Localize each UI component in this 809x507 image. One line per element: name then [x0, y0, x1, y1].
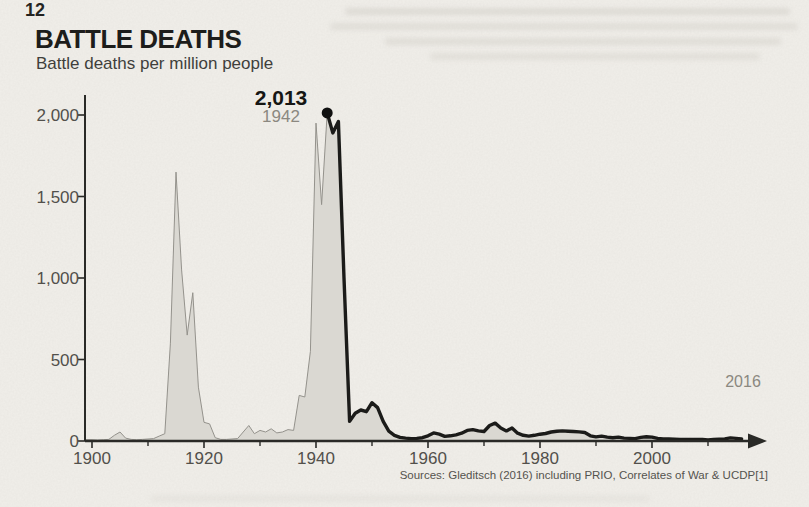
peak-dot — [322, 107, 333, 118]
y-tick-label-500: 500 — [51, 351, 79, 370]
x-tick-label-1900: 1900 — [73, 449, 111, 468]
x-tick-label-1980: 1980 — [521, 449, 559, 468]
x-tick-label-1940: 1940 — [297, 449, 335, 468]
y-tick-label-2000: 2,000 — [36, 106, 79, 125]
battle-deaths-line — [327, 113, 741, 440]
x-tick-label-1960: 1960 — [409, 449, 447, 468]
x-tick-label-1920: 1920 — [185, 449, 223, 468]
x-axis-arrow-icon — [748, 434, 767, 449]
battle-deaths-chart: 05001,0001,5002,000190019201940196019802… — [0, 0, 809, 507]
battle-deaths-area — [85, 113, 742, 441]
peak-year-label: 1942 — [246, 107, 316, 127]
x-tick-label-2000: 2000 — [633, 449, 671, 468]
y-tick-label-1000: 1,000 — [36, 269, 79, 288]
book-page: BATTLE DEATHS Battle deaths per million … — [0, 0, 809, 507]
y-tick-label-1500: 1,500 — [36, 188, 79, 207]
latest-year-label: 2016 — [708, 373, 778, 391]
source-attribution: Sources: Gleditsch (2016) including PRIO… — [400, 469, 768, 481]
